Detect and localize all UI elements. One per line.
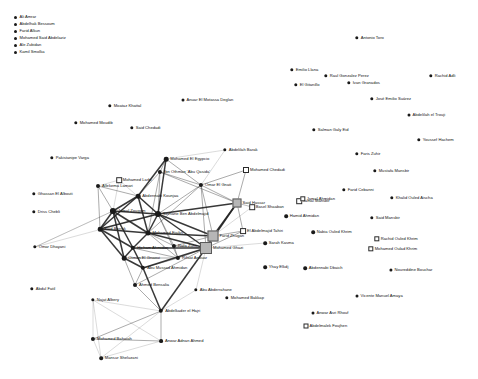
legend-item: Kamil Smolka — [14, 49, 66, 56]
node-label: Abdelilah el Trouji — [413, 113, 446, 117]
node-label: Mohamed Bahaiah — [97, 337, 132, 341]
graph-edge — [98, 186, 100, 229]
node-circle-icon — [146, 231, 151, 236]
node-label: Najat Albery — [97, 298, 119, 302]
legend-item-label: Farid Alkun — [20, 29, 40, 33]
node-label: Jamal Zougam — [118, 209, 145, 213]
node-label: Anuar El Motassa Deglan — [187, 98, 234, 102]
node-label: Mohamed El Egypcio — [170, 157, 209, 161]
node-filled-square-icon — [233, 199, 242, 208]
node-label: Mohamed Larbi — [123, 178, 152, 182]
node-label: Otman El Gnaoui — [128, 256, 160, 260]
node-filled-square-icon — [200, 242, 212, 254]
node-label: Omar Dhayani — [39, 245, 66, 249]
graph-edge — [93, 300, 101, 358]
node-label: Mustafa Mansbir — [379, 169, 410, 173]
node-label: Noureddine Bouchar — [395, 268, 433, 272]
legend-marker-circle-icon — [14, 51, 17, 54]
legend-item-label: Kamil Smolka — [20, 50, 45, 54]
node-label: Youssef Hachem — [423, 138, 454, 142]
node-label: Abdul Fatil — [36, 287, 56, 291]
graph-edge — [135, 285, 161, 311]
node-label: Sarah Kasma — [269, 241, 294, 245]
node-label: Mohamed Bakkap — [231, 296, 264, 300]
node-label: Rafa Zuhir — [178, 244, 197, 248]
node-circle-icon — [263, 265, 267, 269]
node-circle-icon — [312, 312, 315, 315]
node-circle-icon — [263, 241, 267, 245]
node-circle-icon — [136, 194, 141, 199]
legend-item: Ale Zubidan — [14, 42, 66, 49]
node-label: Farid Cebanni — [348, 188, 374, 192]
node-label: Vicente Manuel Amaya — [361, 294, 403, 298]
node-label: Antonio Toro — [361, 36, 384, 40]
legend-marker-circle-icon — [14, 16, 17, 19]
node-label: José Emilio Suárez — [376, 97, 411, 101]
node-circle-icon — [164, 157, 169, 162]
node-label: Mohamed Oulad Khrim — [375, 247, 417, 251]
node-label: Hamid Ahmidan — [290, 214, 319, 218]
node-label: Driss Chebli — [38, 210, 60, 214]
node-label: Mansur Sheluzani — [105, 356, 138, 360]
graph-edges-layer — [0, 0, 478, 379]
graph-edge — [143, 268, 161, 311]
node-label: El Abdelmajid Tahiri — [247, 229, 283, 233]
legend-item-label: Mohamed Said Abdelaziz — [20, 36, 66, 40]
node-label: Rifaat Anouar — [182, 256, 207, 260]
node-circle-icon — [133, 283, 137, 287]
node-circle-icon — [182, 99, 185, 102]
node-circle-icon — [96, 184, 100, 188]
node-label: Mohamed Chedadi — [250, 168, 285, 172]
graph-edge — [124, 258, 135, 285]
node-label: Anwar Asri Rhouf — [317, 311, 349, 315]
graph-edge — [101, 311, 161, 358]
node-label: El Gitanillo — [300, 83, 320, 87]
legend: Ali AmrarAbdelhak BessoumFarid AlkunMoha… — [14, 14, 66, 56]
node-open-square-icon — [243, 167, 249, 173]
node-circle-icon — [159, 339, 163, 343]
node-circle-icon — [408, 114, 411, 117]
node-circle-icon — [99, 356, 103, 360]
node-circle-icon — [122, 256, 127, 261]
node-label: Abdelkader el Hajri — [165, 309, 200, 313]
legend-item: Abdelhak Bessoum — [14, 21, 66, 28]
node-label: Said Chedadi — [136, 126, 161, 130]
node-label: Abdelmalek Foujhen — [310, 324, 348, 328]
node-label: Said Mansbir — [376, 216, 400, 220]
legend-marker-circle-icon — [14, 23, 17, 26]
legend-item: Mohamed Said Abdelaziz — [14, 35, 66, 42]
node-label: Abdelilah Barak — [229, 148, 258, 152]
node-label: Said Berrak — [104, 227, 126, 231]
node-label: Ivan Granados — [353, 81, 380, 85]
node-open-square-icon — [374, 236, 379, 241]
node-open-square-icon — [368, 246, 373, 251]
node-label: Emilio Llana — [296, 68, 319, 72]
node-label: Rachid Ouled Khrim — [381, 237, 418, 241]
node-label: Abdennabi Kounjaa — [142, 194, 178, 198]
node-circle-icon — [98, 227, 103, 232]
legend-marker-circle-icon — [14, 44, 17, 47]
legend-item-label: Ali Amrar — [20, 15, 37, 19]
node-label: Jamal Ahmidan — [307, 197, 335, 201]
node-filled-square-icon — [208, 231, 219, 242]
node-label: Ghassan El Albouti — [38, 192, 73, 196]
node-label: Serhane Ben Abdelmajid — [163, 212, 209, 216]
legend-item: Farid Alkun — [14, 28, 66, 35]
network-graph-canvas: Antonio ToroEmilio LlanaRaul Gonzalez Pe… — [0, 0, 478, 379]
legend-item-label: Ale Zubidan — [20, 43, 42, 47]
node-open-square-icon — [116, 177, 122, 183]
node-label: Abu Mussad Ahmidan — [147, 266, 187, 270]
node-label: Ibn Othman 'Abu Qasida' — [164, 170, 210, 174]
node-label: Omar El Gnati — [205, 183, 231, 187]
node-label: Farid Zhugan — [220, 234, 245, 238]
node-label: Mohamed Fisikri — [153, 231, 183, 235]
node-label: Allekema Lamari — [102, 184, 133, 188]
node-circle-icon — [356, 295, 359, 298]
node-label: Faris Zuhir — [361, 152, 381, 156]
node-circle-icon — [303, 266, 307, 270]
legend-item-label: Abdelhak Bessoum — [20, 22, 55, 26]
node-circle-icon — [284, 214, 288, 218]
node-label: Basel Shaaban — [256, 205, 284, 209]
node-label: Abu Abderrahane — [200, 288, 232, 292]
node-label: Moataz Khattal — [114, 104, 142, 108]
